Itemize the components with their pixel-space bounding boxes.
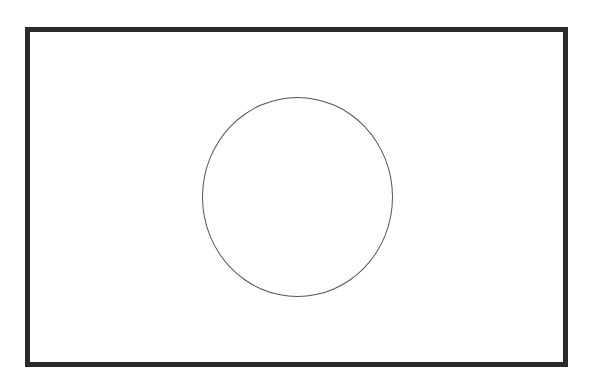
center-circle: [202, 97, 393, 297]
